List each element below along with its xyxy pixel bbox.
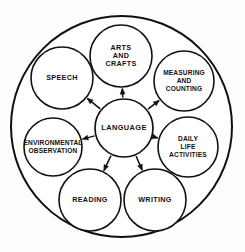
node-writing[interactable]: WRITING — [124, 169, 186, 231]
node-reading[interactable]: READING — [59, 169, 121, 231]
node-speech[interactable]: SPEECH — [31, 47, 93, 109]
node-language[interactable]: LANGUAGE — [95, 99, 153, 157]
node-arts-and-crafts[interactable]: ARTSANDCRAFTS — [90, 25, 152, 87]
node-label-writing: WRITING — [138, 195, 172, 204]
node-daily-life-activities[interactable]: DAILYLIFEACTIVITIES — [158, 117, 218, 177]
node-label-reading: READING — [72, 195, 108, 204]
node-label-speech: SPEECH — [46, 73, 78, 82]
concept-map-diagram: ARTSANDCRAFTSMEASURINGANDCOUNTINGDAILYLI… — [0, 0, 245, 252]
node-environmental-observation[interactable]: ENVIRONMENTALOBSERVATION — [24, 118, 83, 176]
node-label-environmental-observation: ENVIRONMENTALOBSERVATION — [24, 139, 83, 154]
hub-group: LANGUAGE — [95, 99, 153, 157]
node-measuring-and-counting[interactable]: MEASURINGANDCOUNTING — [154, 51, 214, 111]
diagram-canvas: ARTSANDCRAFTSMEASURINGANDCOUNTINGDAILYLI… — [0, 0, 245, 252]
node-label-language: LANGUAGE — [101, 123, 147, 132]
